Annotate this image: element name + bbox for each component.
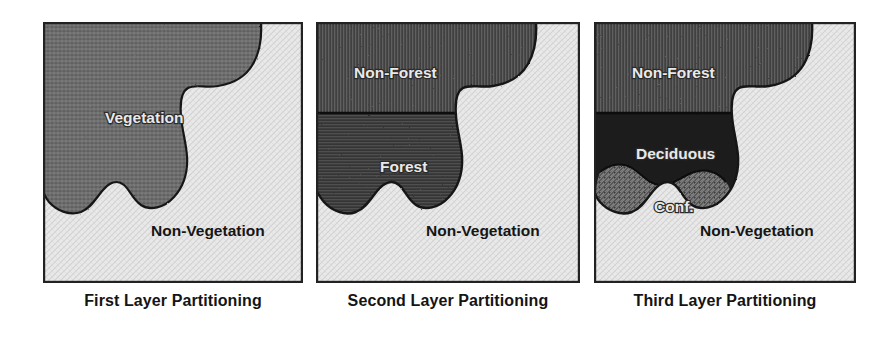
- region-label-non-forest: Non-Forest: [354, 64, 437, 81]
- region-label-non-vegetation: Non-Vegetation: [151, 222, 265, 239]
- panel-third-layer: Non-Forest Deciduous Conf. Non-Vegetatio…: [594, 22, 856, 283]
- region-label-non-forest: Non-Forest: [632, 64, 715, 81]
- region-label-forest: Forest: [380, 158, 427, 175]
- panel-first-layer: Vegetation Non-Vegetation: [43, 22, 303, 283]
- panel-second-layer-scene: Non-Forest Forest Non-Vegetation: [316, 22, 580, 283]
- caption-second-layer: Second Layer Partitioning: [316, 292, 580, 310]
- region-label-coniferous: Conf.: [654, 198, 694, 215]
- panel-third-layer-scene: Non-Forest Deciduous Conf. Non-Vegetatio…: [594, 22, 856, 283]
- region-label-deciduous: Deciduous: [636, 145, 715, 162]
- layer-partitioning-figure: Vegetation Non-Vegetation: [0, 0, 888, 337]
- panel-second-layer: Non-Forest Forest Non-Vegetation: [316, 22, 580, 283]
- region-label-vegetation: Vegetation: [105, 109, 183, 126]
- region-label-non-vegetation: Non-Vegetation: [700, 222, 814, 239]
- caption-first-layer: First Layer Partitioning: [43, 292, 303, 310]
- region-label-non-vegetation: Non-Vegetation: [426, 222, 540, 239]
- caption-third-layer: Third Layer Partitioning: [594, 292, 856, 310]
- panel-first-layer-scene: Vegetation Non-Vegetation: [43, 22, 303, 283]
